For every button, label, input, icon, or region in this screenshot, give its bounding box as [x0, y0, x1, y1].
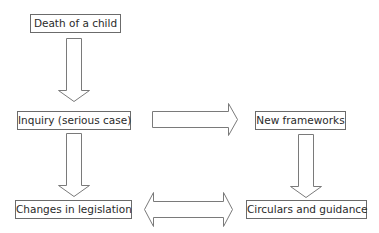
- node-changes-in-legislation: Changes in legislation: [15, 200, 132, 219]
- arrow-right-inquiry-to-frameworks: [153, 104, 238, 136]
- arrow-down-death-to-inquiry: [59, 39, 90, 102]
- arrow-down-inquiry-to-legislation: [59, 134, 90, 197]
- node-inquiry-serious-case: Inquiry (serious case): [17, 111, 131, 130]
- node-new-frameworks: New frameworks: [255, 111, 346, 130]
- node-death-of-a-child: Death of a child: [30, 14, 121, 33]
- node-circulars-and-guidance: Circulars and guidance: [246, 200, 367, 219]
- arrow-down-frameworks-to-circulars: [291, 135, 322, 198]
- arrow-bidirectional-legislation-circulars: [145, 193, 233, 227]
